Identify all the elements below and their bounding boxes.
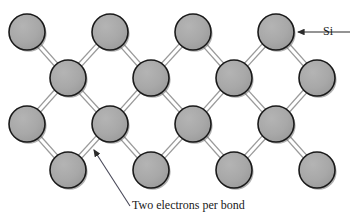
- silicon-atom: [258, 14, 296, 52]
- silicon-atom: [50, 152, 88, 190]
- bonds-layer: [37, 43, 308, 159]
- atom-body: [92, 106, 128, 142]
- atom-body: [258, 14, 294, 50]
- covalent-bond: [203, 89, 225, 113]
- two-electrons-annotation-arrow: [94, 150, 130, 206]
- lattice-canvas: [0, 0, 353, 222]
- silicon-atom: [216, 152, 254, 190]
- atom-body: [133, 152, 169, 188]
- silicon-atom: [92, 106, 130, 144]
- silicon-atom: [9, 106, 47, 144]
- silicon-atom: [133, 60, 171, 98]
- atom-body: [92, 14, 128, 50]
- silicon-atom: [216, 60, 254, 98]
- si-label: Si: [323, 25, 333, 37]
- covalent-bond: [78, 43, 100, 67]
- silicon-atom: [92, 14, 130, 52]
- atom-body: [258, 106, 294, 142]
- covalent-bond: [161, 43, 183, 67]
- silicon-atom: [133, 152, 171, 190]
- silicon-atom: [175, 14, 213, 52]
- silicon-atom: [175, 106, 213, 144]
- covalent-bond: [37, 89, 59, 113]
- atom-body: [299, 152, 335, 188]
- silicon-atom: [299, 152, 337, 190]
- atom-body: [216, 152, 252, 188]
- atom-body: [9, 14, 45, 50]
- covalent-bond: [244, 43, 266, 67]
- covalent-bond: [120, 89, 142, 113]
- silicon-atom: [299, 60, 337, 98]
- covalent-bond: [286, 89, 308, 113]
- atom-body: [299, 60, 335, 96]
- two-electrons-per-bond-label: Two electrons per bond: [132, 199, 245, 211]
- atom-body: [133, 60, 169, 96]
- silicon-atom: [50, 60, 88, 98]
- atom-body: [50, 60, 86, 96]
- atom-body: [50, 152, 86, 188]
- atom-body: [216, 60, 252, 96]
- atoms-layer: [9, 14, 337, 190]
- atom-body: [9, 106, 45, 142]
- atom-body: [175, 106, 211, 142]
- silicon-atom: [258, 106, 296, 144]
- covalent-bond: [161, 135, 183, 159]
- silicon-atom: [9, 14, 47, 52]
- silicon-lattice-figure: Si Two electrons per bond: [0, 0, 353, 222]
- atom-body: [175, 14, 211, 50]
- covalent-bond: [244, 135, 266, 159]
